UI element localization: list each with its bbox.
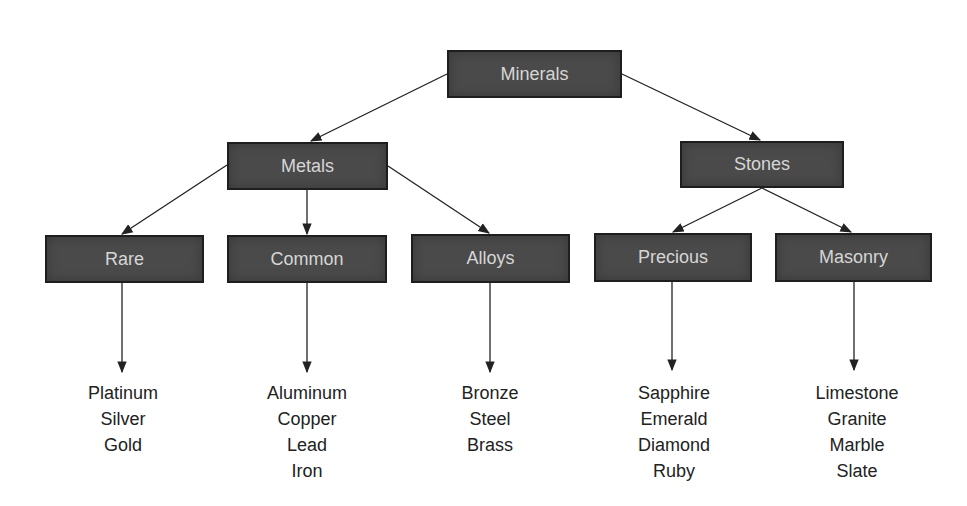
mineral-classification-tree: Minerals Metals Stones Rare Common Alloy… xyxy=(0,0,967,506)
list-item: Aluminum xyxy=(227,380,387,406)
list-item: Steel xyxy=(410,406,570,432)
node-stones: Stones xyxy=(680,141,844,188)
node-metals: Metals xyxy=(227,142,388,190)
node-alloys: Alloys xyxy=(411,234,570,283)
list-item: Emerald xyxy=(594,406,754,432)
node-label: Common xyxy=(270,249,343,270)
list-item: Ruby xyxy=(594,458,754,484)
list-item: Slate xyxy=(777,458,937,484)
list-item: Limestone xyxy=(777,380,937,406)
list-item: Granite xyxy=(777,406,937,432)
node-label: Stones xyxy=(734,154,790,175)
node-label: Minerals xyxy=(500,64,568,85)
node-label: Alloys xyxy=(466,248,514,269)
list-item: Lead xyxy=(227,432,387,458)
common-metals-list: Aluminum Copper Lead Iron xyxy=(227,380,387,484)
edge-minerals-metals xyxy=(311,74,447,141)
rare-metals-list: Platinum Silver Gold xyxy=(43,380,203,458)
list-item: Brass xyxy=(410,432,570,458)
list-item: Iron xyxy=(227,458,387,484)
edge-stones-precious xyxy=(673,188,762,232)
node-minerals: Minerals xyxy=(447,50,622,98)
list-item: Marble xyxy=(777,432,937,458)
alloys-list: Bronze Steel Brass xyxy=(410,380,570,458)
list-item: Silver xyxy=(43,406,203,432)
node-label: Precious xyxy=(638,247,708,268)
list-item: Sapphire xyxy=(594,380,754,406)
edge-metals-rare xyxy=(122,165,227,234)
edge-minerals-stones xyxy=(622,74,760,140)
list-item: Gold xyxy=(43,432,203,458)
list-item: Diamond xyxy=(594,432,754,458)
edge-metals-alloys xyxy=(388,166,489,233)
masonry-stones-list: Limestone Granite Marble Slate xyxy=(777,380,937,484)
node-precious: Precious xyxy=(594,233,752,282)
list-item: Platinum xyxy=(43,380,203,406)
precious-stones-list: Sapphire Emerald Diamond Ruby xyxy=(594,380,754,484)
node-rare: Rare xyxy=(45,235,204,283)
node-label: Masonry xyxy=(819,247,888,268)
node-masonry: Masonry xyxy=(775,233,932,282)
list-item: Bronze xyxy=(410,380,570,406)
node-label: Rare xyxy=(105,249,144,270)
node-common: Common xyxy=(227,235,387,283)
edge-stones-masonry xyxy=(762,188,851,232)
node-label: Metals xyxy=(281,156,334,177)
list-item: Copper xyxy=(227,406,387,432)
